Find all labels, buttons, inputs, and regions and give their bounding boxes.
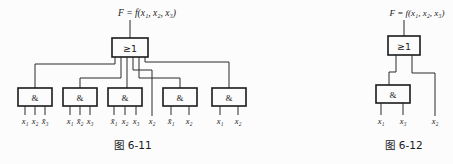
and-gate-4-symbol: & (176, 93, 183, 103)
and-gate-2-input-stubs (70, 106, 90, 115)
and-gate-4-input-stubs (171, 106, 189, 115)
or-gate-symbol: ≥1 (123, 43, 137, 54)
input-label: x₃ (86, 116, 94, 126)
or-gate-symbol: ≥1 (397, 41, 411, 52)
input-label: x̄₂ (76, 116, 84, 126)
figure-caption: 图 6-12 (385, 139, 422, 151)
input-label: x₂ (121, 116, 129, 126)
input-label: x₁ (21, 116, 29, 126)
function-formula: F = f(x₁, x₂, x₃) (117, 8, 176, 19)
circuit-diagrams: F = f(x₁, x₂, x₃) ≥1 & x₁ x₂ x̄₃ & x₁ x̄… (0, 0, 453, 164)
input-label: x₁ (216, 116, 224, 126)
input-label: x₂ (431, 116, 439, 126)
input-label: x₁ (66, 116, 74, 126)
input-label: x̄₁ (110, 116, 118, 126)
figure-caption: 图 6-11 (114, 139, 151, 151)
input-label: x₃ (399, 116, 407, 126)
figure-6-12: F = f(x₁, x₂, x₃) ≥1 & x₁ x₃ x₂ 图 6-12 (376, 8, 444, 151)
input-label: x̄₃ (41, 116, 49, 126)
and-gate-input-stubs (381, 103, 403, 115)
wire-to-and (389, 55, 396, 85)
and-gate-5-symbol: & (225, 93, 232, 103)
input-label: x₂ (148, 116, 156, 126)
input-label: x₂ (31, 116, 39, 126)
figure-6-11: F = f(x₁, x₂, x₃) ≥1 & x₁ x₂ x̄₃ & x₁ x̄… (18, 8, 246, 151)
input-label: x₂ (234, 116, 242, 126)
page: F = f(x₁, x₂, x₃) ≥1 & x₁ x₂ x̄₃ & x₁ x̄… (0, 0, 453, 164)
and-gate-3-symbol: & (121, 93, 128, 103)
and-gate-5-input-stubs (220, 106, 238, 115)
and-gate-3-input-stubs (114, 106, 136, 115)
and-gate-1-input-stubs (25, 106, 45, 115)
input-label: x₃ (132, 116, 140, 126)
wire-to-and5 (145, 57, 229, 88)
function-formula: F = f(x₁, x₂, x₃) (389, 8, 445, 18)
input-label: x̄₁ (167, 116, 175, 126)
input-label: x₂ (185, 116, 193, 126)
and-gate-2-symbol: & (76, 93, 83, 103)
and-gate-1-symbol: & (31, 93, 38, 103)
wire-direct-input-x2 (412, 55, 435, 116)
and-gate-symbol: & (389, 90, 396, 100)
input-label: x₁ (377, 116, 385, 126)
wire-to-and1 (35, 57, 115, 88)
